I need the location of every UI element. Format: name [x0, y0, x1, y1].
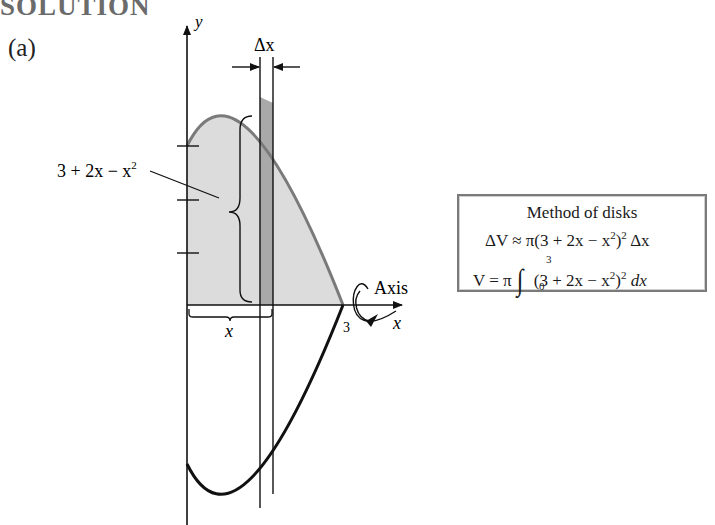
y-axis-label: y	[193, 12, 203, 31]
integral-sign-icon: ∫	[516, 263, 523, 297]
x-intercept-label: 3	[343, 320, 350, 335]
method-title: Method of disks	[459, 203, 705, 223]
lower-limit: 0	[539, 280, 545, 292]
upper-limit: 3	[546, 253, 552, 265]
bottom-curve	[187, 305, 343, 494]
x-axis-label: x	[392, 313, 401, 333]
function-label: 3 + 2x − x2	[57, 159, 137, 181]
method-of-disks-box: Method of disks ΔV ≈ π(3 + 2x − x2)2 Δx …	[457, 194, 707, 292]
volume-integral-equation: V = π∫30(3 + 2x − x2)2 dx	[473, 259, 647, 293]
delta-v-equation: ΔV ≈ π(3 + 2x − x2)2 Δx	[485, 229, 650, 251]
delta-x-label: Δx	[254, 35, 275, 55]
approx-strip	[260, 97, 273, 305]
x-brace-label: x	[224, 321, 233, 341]
axis-label: Axis	[374, 278, 408, 298]
